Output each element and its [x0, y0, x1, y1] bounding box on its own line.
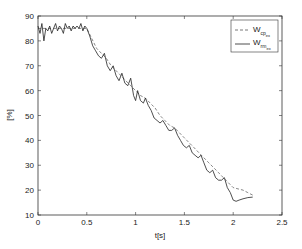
x-tick-label: 1: [133, 218, 138, 227]
y-tick-label: 20: [25, 186, 34, 195]
y-tick-label: 80: [25, 37, 34, 46]
y-axis-label: [%]: [5, 109, 14, 121]
legend: Wcpex Wrmex: [231, 20, 278, 52]
x-tick-label: 1.5: [179, 218, 191, 227]
y-tick-label: 40: [25, 136, 34, 145]
x-tick-label: 0: [36, 218, 41, 227]
y-tick-label: 90: [25, 12, 34, 21]
chart-figure: 00.511.522.5 102030405060708090 t[s] [%]…: [0, 0, 302, 249]
x-tick-label: 2: [231, 218, 236, 227]
x-tick-label: 0.5: [81, 218, 93, 227]
y-tick-label: 70: [25, 62, 34, 71]
x-tick-label: 2.5: [276, 218, 288, 227]
y-tick-label: 30: [25, 161, 34, 170]
y-tick-label: 50: [25, 112, 34, 121]
y-tick-label: 60: [25, 87, 34, 96]
y-tick-label: 10: [25, 211, 34, 220]
x-axis-label: t[s]: [155, 231, 166, 240]
